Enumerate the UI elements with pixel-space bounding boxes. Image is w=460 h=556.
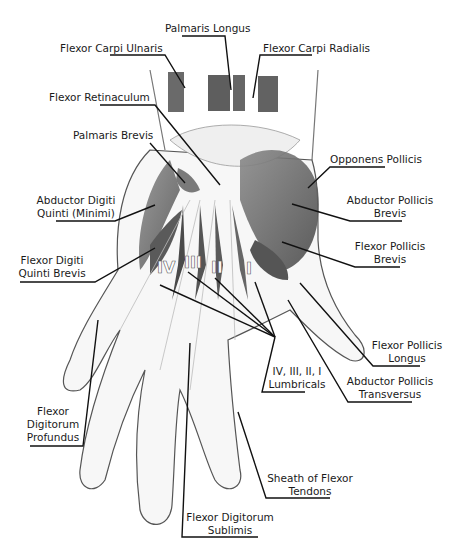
label-line-2: Sublimis xyxy=(180,524,280,537)
label-abductor-pollicis-brevis: Abductor Pollicis Brevis xyxy=(340,194,440,220)
label-line-2: Transversus xyxy=(340,388,440,401)
label-line-1: Sheath of Flexor xyxy=(260,472,360,485)
label-line-2: Tendons xyxy=(260,485,360,498)
label-line-2: Brevis xyxy=(345,253,435,266)
tendon-palmaris-longus xyxy=(208,75,230,111)
label-flexor-carpi-radialis: Flexor Carpi Radialis xyxy=(263,42,370,55)
label-abductor-digiti-quinti: Abductor Digiti Quinti (Minimi) xyxy=(26,194,126,220)
label-opponens-pollicis: Opponens Pollicis xyxy=(330,153,422,166)
numeral-iv: IV xyxy=(157,258,176,277)
label-line-1: Flexor xyxy=(18,405,88,418)
label-palmaris-brevis: Palmaris Brevis xyxy=(73,129,153,142)
hand-anatomy-diagram: IV III II I Palmaris Longu xyxy=(0,0,460,556)
label-flexor-carpi-ulnaris: Flexor Carpi Ulnaris xyxy=(60,42,163,55)
label-line-1: Flexor Digiti xyxy=(12,254,92,267)
label-flexor-digitorum-profundus: Flexor Digitorum Profundus xyxy=(18,405,88,444)
label-abductor-pollicis-transversus: Abductor Pollicis Transversus xyxy=(340,375,440,401)
numeral-i: I xyxy=(246,259,252,278)
label-line-1: Abductor Pollicis xyxy=(340,375,440,388)
label-palmaris-longus: Palmaris Longus xyxy=(165,22,250,35)
label-line-2: Lumbricals xyxy=(262,378,332,391)
leader-opponens-pollicis xyxy=(308,167,385,188)
tendon-radial xyxy=(258,76,278,112)
label-line-1: Flexor Pollicis xyxy=(345,240,435,253)
label-flexor-pollicis-brevis: Flexor Pollicis Brevis xyxy=(345,240,435,266)
tendon-flexor-carpi-radialis xyxy=(233,75,245,111)
label-line-1: IV, III, II, I xyxy=(262,365,332,378)
label-line-2: Longus xyxy=(362,352,452,365)
label-line-1: Abductor Pollicis xyxy=(340,194,440,207)
label-line-2: Quinti Brevis xyxy=(12,267,92,280)
numeral-iii: III xyxy=(184,253,202,272)
label-line-1: Flexor Digitorum xyxy=(180,511,280,524)
label-line-1: Abductor Digiti xyxy=(26,194,126,207)
numeral-ii: II xyxy=(211,258,223,277)
label-line-3: Profundus xyxy=(18,431,88,444)
label-flexor-pollicis-longus: Flexor Pollicis Longus xyxy=(362,339,452,365)
label-flexor-digiti-quinti-brevis: Flexor Digiti Quinti Brevis xyxy=(12,254,92,280)
label-line-2: Brevis xyxy=(340,207,440,220)
label-flexor-digitorum-sublimis: Flexor Digitorum Sublimis xyxy=(180,511,280,537)
label-sheath-flexor-tendons: Sheath of Flexor Tendons xyxy=(260,472,360,498)
tendon-flexor-carpi-ulnaris xyxy=(168,72,184,112)
label-line-1: Flexor Pollicis xyxy=(362,339,452,352)
label-line-2: Digitorum xyxy=(18,418,88,431)
label-line-2: Quinti (Minimi) xyxy=(26,207,126,220)
label-flexor-retinaculum: Flexor Retinaculum xyxy=(49,91,150,104)
label-lumbricals: IV, III, II, I Lumbricals xyxy=(262,365,332,391)
